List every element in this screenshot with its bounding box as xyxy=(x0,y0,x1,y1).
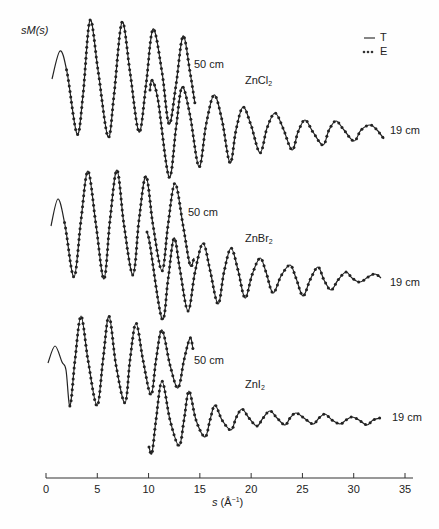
experimental-point xyxy=(264,130,267,133)
experimental-point xyxy=(105,330,108,333)
experimental-point xyxy=(362,279,365,282)
experimental-point xyxy=(155,89,158,92)
experimental-point xyxy=(84,68,87,71)
experimental-point xyxy=(84,62,87,65)
experimental-point xyxy=(221,283,224,286)
experimental-point xyxy=(169,119,172,122)
experimental-point xyxy=(164,253,167,256)
experimental-point xyxy=(193,413,196,416)
experimental-point xyxy=(130,342,133,345)
experimental-point xyxy=(196,424,199,427)
experimental-point xyxy=(201,149,204,152)
experimental-point xyxy=(115,64,118,67)
label-19cm-znbr2: 19 cm xyxy=(390,276,420,288)
experimental-point xyxy=(201,434,204,437)
experimental-point xyxy=(320,272,323,275)
experimental-point xyxy=(77,328,80,331)
experimental-point xyxy=(156,40,159,43)
experimental-point xyxy=(178,267,181,270)
experimental-point xyxy=(147,63,150,66)
experimental-point xyxy=(149,200,152,203)
experimental-point xyxy=(233,142,236,145)
experimental-point xyxy=(98,396,101,399)
experimental-point xyxy=(129,74,132,77)
experimental-point xyxy=(228,428,231,431)
experimental-point xyxy=(109,130,112,133)
experimental-point xyxy=(139,344,142,347)
experimental-point xyxy=(218,107,221,110)
experimental-point xyxy=(236,268,239,271)
experimental-point xyxy=(240,284,243,287)
experimental-point xyxy=(214,296,217,299)
experimental-point xyxy=(191,85,194,88)
experimental-point xyxy=(80,216,83,219)
experimental-point xyxy=(138,338,141,341)
x-tick-label: 25 xyxy=(296,483,308,495)
experimental-point xyxy=(149,41,152,44)
experimental-point xyxy=(176,191,179,194)
experimental-point xyxy=(176,444,179,447)
experimental-point xyxy=(369,421,372,424)
experimental-point xyxy=(183,414,186,417)
experimental-point xyxy=(97,72,100,75)
experimental-point xyxy=(82,90,85,93)
experimental-point xyxy=(75,345,78,348)
experimental-point xyxy=(168,209,171,212)
experimental-point xyxy=(126,46,129,49)
experimental-point xyxy=(163,337,166,340)
experimental-point xyxy=(71,112,74,115)
experimental-point xyxy=(190,123,193,126)
experimental-point xyxy=(105,265,108,268)
experimental-point xyxy=(179,441,182,444)
experimental-point xyxy=(314,134,317,137)
experimental-point xyxy=(213,291,216,294)
experimental-point xyxy=(157,341,160,344)
experimental-point xyxy=(172,103,175,106)
experimental-point xyxy=(163,309,166,312)
experimental-point xyxy=(156,346,159,349)
experimental-point xyxy=(100,374,103,377)
experimental-point xyxy=(93,45,96,48)
theory-curve xyxy=(51,170,194,279)
experimental-point xyxy=(167,276,170,279)
experimental-point xyxy=(160,127,163,130)
experimental-point xyxy=(128,68,131,71)
experimental-point xyxy=(87,171,90,174)
experimental-point xyxy=(103,121,106,124)
experimental-point xyxy=(164,342,167,345)
experimental-point xyxy=(111,114,114,117)
experimental-point xyxy=(72,372,75,375)
experimental-point xyxy=(205,253,208,256)
experimental-point xyxy=(194,266,197,269)
experimental-point xyxy=(173,182,176,185)
experimental-point xyxy=(235,415,238,418)
experimental-point xyxy=(215,96,218,99)
experimental-point xyxy=(171,374,174,377)
experimental-point xyxy=(84,338,87,341)
experimental-point xyxy=(177,196,180,199)
experimental-point xyxy=(245,412,248,415)
experimental-point xyxy=(107,232,110,235)
experimental-point xyxy=(189,392,192,395)
experimental-point xyxy=(158,110,161,113)
experimental-point xyxy=(154,285,157,288)
experimental-point xyxy=(286,264,289,267)
experimental-point xyxy=(341,126,344,129)
experimental-point xyxy=(131,273,134,276)
experimental-point xyxy=(151,450,154,453)
experimental-point xyxy=(119,26,122,29)
experimental-point xyxy=(377,274,380,277)
experimental-point xyxy=(68,254,71,257)
experimental-point xyxy=(222,128,225,131)
experimental-point xyxy=(73,366,76,369)
experimental-point xyxy=(261,146,264,149)
experimental-point xyxy=(83,79,86,82)
experimental-point xyxy=(120,198,123,201)
experimental-point xyxy=(159,116,162,119)
experimental-point xyxy=(147,183,150,186)
experimental-point xyxy=(153,83,156,86)
experimental-point xyxy=(184,240,187,243)
experimental-point xyxy=(160,317,163,320)
experimental-point xyxy=(205,122,208,125)
experimental-point xyxy=(102,352,105,355)
